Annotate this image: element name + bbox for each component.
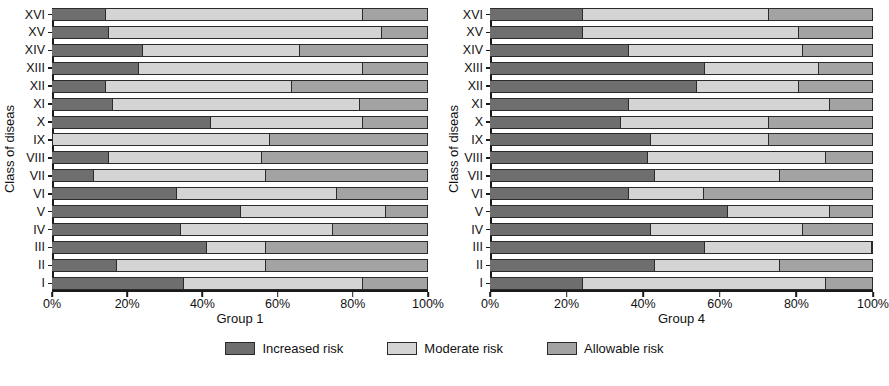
stacked-bar[interactable]	[52, 80, 428, 93]
bar-segment-increased[interactable]	[52, 27, 108, 38]
stacked-bar[interactable]	[52, 116, 428, 129]
bar-segment-increased[interactable]	[52, 81, 105, 92]
bar-segment-moderate[interactable]	[650, 134, 768, 145]
bar-segment-moderate[interactable]	[582, 278, 826, 289]
bar-segment-moderate[interactable]	[628, 188, 704, 199]
bar-segment-increased[interactable]	[490, 45, 628, 56]
bar-segment-moderate[interactable]	[628, 45, 804, 56]
stacked-bar[interactable]	[490, 205, 873, 218]
stacked-bar[interactable]	[490, 98, 873, 111]
bar-segment-allowable[interactable]	[769, 117, 872, 128]
bar-segment-allowable[interactable]	[386, 206, 427, 217]
bar-segment-allowable[interactable]	[292, 81, 427, 92]
bar-segment-moderate[interactable]	[696, 81, 799, 92]
bar-segment-allowable[interactable]	[799, 81, 872, 92]
bar-segment-increased[interactable]	[52, 117, 210, 128]
legend-item-allowable[interactable]: Allowable risk	[547, 341, 663, 356]
bar-segment-moderate[interactable]	[620, 117, 769, 128]
legend-item-increased[interactable]: Increased risk	[225, 341, 343, 356]
bar-segment-increased[interactable]	[52, 188, 176, 199]
bar-segment-increased[interactable]	[490, 27, 582, 38]
bar-segment-allowable[interactable]	[780, 170, 872, 181]
stacked-bar[interactable]	[490, 133, 873, 146]
bar-segment-allowable[interactable]	[262, 152, 427, 163]
bar-segment-moderate[interactable]	[105, 81, 293, 92]
stacked-bar[interactable]	[52, 62, 428, 75]
bar-segment-moderate[interactable]	[93, 170, 266, 181]
legend-item-moderate[interactable]: Moderate risk	[387, 341, 503, 356]
stacked-bar[interactable]	[52, 8, 428, 21]
bar-segment-moderate[interactable]	[105, 9, 364, 20]
bar-segment-allowable[interactable]	[266, 260, 427, 271]
bar-segment-moderate[interactable]	[108, 27, 382, 38]
bar-segment-allowable[interactable]	[830, 206, 872, 217]
bar-segment-moderate[interactable]	[654, 170, 780, 181]
stacked-bar[interactable]	[490, 26, 873, 39]
bar-segment-increased[interactable]	[52, 63, 138, 74]
stacked-bar[interactable]	[490, 241, 873, 254]
bar-segment-allowable[interactable]	[780, 260, 872, 271]
bar-segment-moderate[interactable]	[210, 117, 364, 128]
bar-segment-increased[interactable]	[490, 117, 620, 128]
bar-segment-allowable[interactable]	[382, 27, 427, 38]
bar-segment-increased[interactable]	[490, 278, 582, 289]
stacked-bar[interactable]	[52, 205, 428, 218]
stacked-bar[interactable]	[52, 241, 428, 254]
bar-segment-allowable[interactable]	[769, 9, 872, 20]
bar-segment-allowable[interactable]	[704, 188, 872, 199]
bar-segment-moderate[interactable]	[180, 224, 334, 235]
bar-segment-allowable[interactable]	[360, 99, 428, 110]
bar-segment-moderate[interactable]	[727, 206, 830, 217]
bar-segment-increased[interactable]	[490, 63, 704, 74]
bar-segment-allowable[interactable]	[363, 9, 427, 20]
bar-segment-allowable[interactable]	[300, 45, 428, 56]
bar-segment-increased[interactable]	[52, 152, 108, 163]
bar-segment-increased[interactable]	[490, 260, 654, 271]
stacked-bar[interactable]	[52, 44, 428, 57]
bar-segment-allowable[interactable]	[266, 242, 427, 253]
bar-segment-increased[interactable]	[490, 206, 727, 217]
bar-segment-increased[interactable]	[490, 188, 628, 199]
bar-segment-increased[interactable]	[52, 278, 183, 289]
stacked-bar[interactable]	[52, 187, 428, 200]
bar-segment-increased[interactable]	[52, 224, 180, 235]
bar-segment-allowable[interactable]	[363, 117, 427, 128]
stacked-bar[interactable]	[52, 277, 428, 290]
bar-segment-allowable[interactable]	[363, 63, 427, 74]
bar-segment-moderate[interactable]	[183, 278, 363, 289]
bar-segment-allowable[interactable]	[266, 170, 427, 181]
bar-segment-moderate[interactable]	[654, 260, 780, 271]
bar-segment-increased[interactable]	[490, 242, 704, 253]
stacked-bar[interactable]	[490, 44, 873, 57]
bar-segment-moderate[interactable]	[112, 99, 360, 110]
bar-segment-increased[interactable]	[490, 170, 654, 181]
bar-segment-allowable[interactable]	[819, 63, 872, 74]
bar-segment-moderate[interactable]	[647, 152, 827, 163]
stacked-bar[interactable]	[490, 259, 873, 272]
bar-segment-increased[interactable]	[52, 242, 206, 253]
stacked-bar[interactable]	[490, 8, 873, 21]
bar-segment-allowable[interactable]	[363, 278, 427, 289]
stacked-bar[interactable]	[52, 259, 428, 272]
bar-segment-moderate[interactable]	[628, 99, 830, 110]
bar-segment-increased[interactable]	[490, 81, 696, 92]
stacked-bar[interactable]	[490, 116, 873, 129]
bar-segment-allowable[interactable]	[826, 278, 872, 289]
bar-segment-allowable[interactable]	[333, 224, 427, 235]
bar-segment-increased[interactable]	[490, 224, 650, 235]
bar-segment-moderate[interactable]	[142, 45, 300, 56]
bar-segment-allowable[interactable]	[803, 45, 872, 56]
bar-segment-allowable[interactable]	[826, 152, 872, 163]
stacked-bar[interactable]	[52, 151, 428, 164]
bar-segment-moderate[interactable]	[176, 188, 337, 199]
stacked-bar[interactable]	[490, 62, 873, 75]
stacked-bar[interactable]	[490, 187, 873, 200]
bar-segment-allowable[interactable]	[337, 188, 427, 199]
stacked-bar[interactable]	[490, 151, 873, 164]
bar-segment-increased[interactable]	[52, 9, 105, 20]
stacked-bar[interactable]	[490, 277, 873, 290]
stacked-bar[interactable]	[52, 223, 428, 236]
bar-segment-increased[interactable]	[490, 99, 628, 110]
bar-segment-increased[interactable]	[52, 206, 240, 217]
bar-segment-increased[interactable]	[52, 45, 142, 56]
